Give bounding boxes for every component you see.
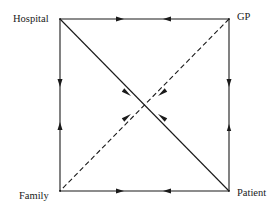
edge-family-patient	[60, 189, 229, 194]
node-gp-point	[228, 18, 230, 20]
node-patient-point	[228, 190, 230, 192]
edge-hospital-family	[58, 19, 63, 191]
node-hospital-point	[59, 18, 61, 20]
label-hospital: Hospital	[13, 13, 49, 24]
arrow-up-icon	[58, 122, 63, 130]
edge-hospital-gp	[60, 17, 229, 22]
arrow-up-icon	[227, 124, 231, 131]
arrow-right-icon	[116, 17, 124, 22]
label-gp: GP	[237, 11, 251, 22]
edge-gp-patient	[227, 19, 232, 191]
arrow-left-icon	[163, 17, 171, 22]
arrow-up-right-icon	[122, 114, 131, 122]
label-family: Family	[19, 190, 50, 201]
relationship-diagram: Hospital GP Family Patient	[0, 0, 279, 210]
node-family-point	[59, 190, 61, 192]
arrow-right-icon	[116, 189, 124, 194]
arrow-down-icon	[227, 79, 232, 87]
arrow-down-icon	[58, 79, 63, 87]
arrow-left-icon	[163, 189, 171, 194]
label-patient: Patient	[237, 187, 266, 198]
